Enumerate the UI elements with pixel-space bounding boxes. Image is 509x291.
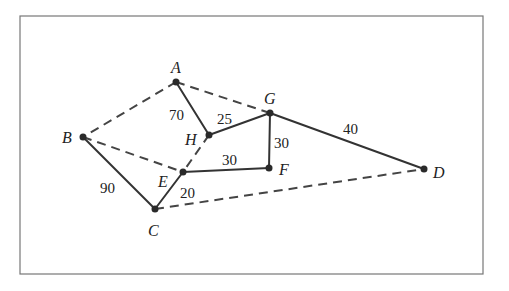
- node-B: [80, 134, 87, 141]
- node-F: [266, 165, 273, 172]
- edge-G-F: [269, 113, 270, 168]
- node-label-C: C: [148, 222, 159, 239]
- node-D: [421, 166, 428, 173]
- node-label-F: F: [278, 161, 289, 178]
- edge-weight-H-G: 25: [217, 111, 232, 127]
- edge-weight-E-F: 30: [222, 152, 237, 168]
- edge-weight-G-D: 40: [343, 121, 358, 137]
- diagram-frame: [20, 16, 483, 274]
- edge-A-G: [176, 82, 270, 113]
- node-label-G: G: [264, 90, 276, 107]
- node-G: [267, 110, 274, 117]
- edge-weight-C-E: 20: [180, 185, 195, 201]
- node-C: [152, 206, 159, 213]
- node-label-E: E: [157, 173, 168, 190]
- node-label-A: A: [170, 59, 181, 76]
- nodes-group: [80, 79, 428, 213]
- edge-weights-group: 70253040309020: [100, 107, 358, 201]
- edge-weight-G-F: 30: [274, 135, 289, 151]
- node-label-B: B: [62, 129, 72, 146]
- node-A: [173, 79, 180, 86]
- node-E: [180, 169, 187, 176]
- edge-E-F: [183, 168, 269, 172]
- edges-group: [83, 82, 424, 209]
- edge-A-B: [83, 82, 176, 137]
- edge-weight-B-C: 90: [100, 180, 115, 196]
- node-H: [206, 132, 213, 139]
- graph-diagram: 70253040309020 ABCDEFGH: [0, 0, 509, 291]
- edge-B-E: [83, 137, 183, 172]
- node-label-H: H: [184, 131, 198, 148]
- node-label-D: D: [432, 164, 445, 181]
- edge-B-C: [83, 137, 155, 209]
- edge-weight-A-H: 70: [169, 107, 184, 123]
- edge-C-D: [155, 169, 424, 209]
